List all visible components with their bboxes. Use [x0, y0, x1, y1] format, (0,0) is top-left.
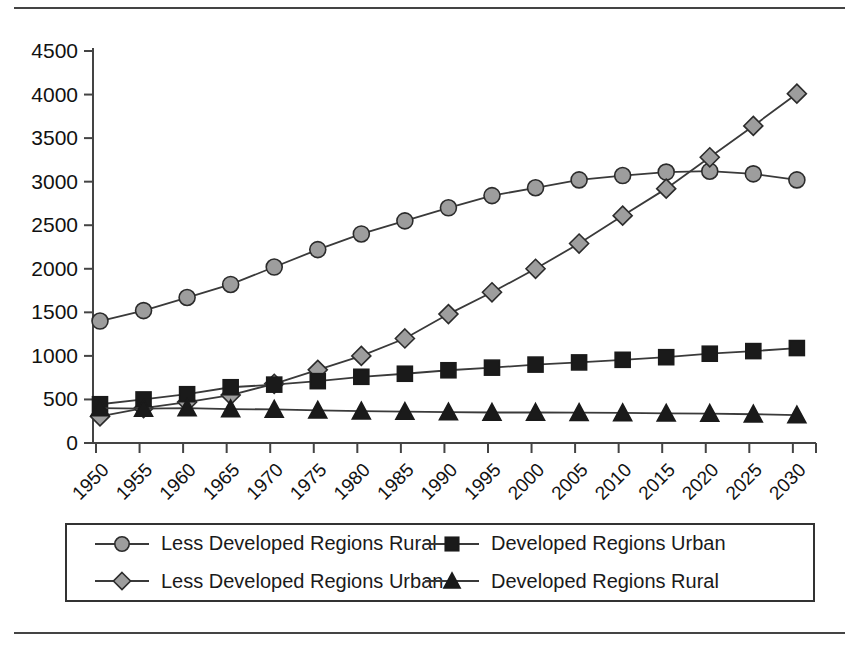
legend-item-label: Less Developed Regions Rural [161, 532, 437, 555]
data-point-marker [353, 226, 369, 242]
data-point-marker [482, 283, 501, 302]
x-axis-tick-label: 1960 [155, 459, 200, 504]
x-axis-tick-label: 1965 [199, 459, 244, 504]
data-point-marker [702, 346, 717, 361]
data-point-marker [787, 84, 806, 103]
data-point-marker [136, 303, 152, 319]
x-axis-tick-label: 1975 [286, 459, 331, 504]
data-point-marker [789, 172, 805, 188]
x-axis-tick-label: 1955 [112, 459, 157, 504]
data-point-marker [439, 305, 458, 324]
legend-item[interactable]: Developed Regions Urban [423, 532, 813, 556]
data-point-marker [310, 242, 326, 258]
data-point-marker [266, 259, 282, 275]
legend-item-label: Less Developed Regions Urban [161, 570, 443, 593]
x-axis-tick-label: 1985 [373, 459, 418, 504]
data-point-marker [223, 380, 238, 395]
data-point-marker [397, 213, 413, 229]
data-point-marker [267, 377, 282, 392]
data-point-marker [395, 329, 414, 348]
y-axis: 050010001500200025003000350040004500 [31, 39, 93, 454]
x-axis-tick-label: 2015 [634, 459, 679, 504]
x-axis-tick-label: 2030 [765, 459, 810, 504]
data-point-marker [746, 344, 761, 359]
data-point-marker [659, 350, 674, 365]
y-axis-tick-label: 2000 [31, 257, 78, 280]
data-point-marker [526, 259, 545, 278]
data-point-marker [570, 234, 589, 253]
chart-series [93, 341, 805, 412]
x-axis-tick-label: 2025 [721, 459, 766, 504]
y-axis-tick-label: 1000 [31, 344, 78, 367]
y-axis-tick-label: 3000 [31, 170, 78, 193]
y-axis-tick-label: 2500 [31, 213, 78, 236]
y-axis-tick-label: 1500 [31, 300, 78, 323]
data-point-marker [92, 313, 108, 329]
x-axis-tick-label: 1990 [417, 459, 462, 504]
y-axis-tick-label: 4500 [31, 39, 78, 62]
data-point-marker [484, 360, 499, 375]
chart-series [91, 399, 806, 423]
data-point-marker [528, 357, 543, 372]
bottom-divider-rule [14, 632, 845, 634]
data-point-marker [484, 188, 500, 204]
data-point-marker [572, 355, 587, 370]
chart-canvas: 050010001500200025003000350040004500 195… [0, 20, 859, 520]
y-axis-tick-label: 3500 [31, 126, 78, 149]
x-axis-tick-label: 1970 [242, 459, 287, 504]
x-axis-tick-label: 1995 [460, 459, 505, 504]
data-point-marker [657, 179, 676, 198]
legend-item[interactable]: Less Developed Regions Rural [93, 532, 423, 556]
x-axis-tick-label: 2020 [678, 459, 723, 504]
x-axis-tick-label: 1950 [68, 459, 113, 504]
x-axis: 1950195519601965197019751980198519901995… [68, 443, 816, 504]
data-point-marker [700, 148, 719, 167]
data-point-marker [354, 369, 369, 384]
x-axis-tick-label: 2010 [591, 459, 636, 504]
top-divider-rule [14, 7, 845, 9]
series-layer [91, 84, 807, 426]
data-point-marker [223, 276, 239, 292]
data-point-marker [658, 164, 674, 180]
x-axis-tick-label: 2005 [547, 459, 592, 504]
data-point-marker [441, 363, 456, 378]
y-axis-tick-label: 500 [43, 387, 78, 410]
data-point-marker [613, 206, 632, 225]
y-axis-tick-label: 4000 [31, 83, 78, 106]
legend-item-label: Developed Regions Urban [491, 532, 726, 555]
y-axis-tick-label: 0 [66, 431, 78, 454]
data-point-marker [744, 116, 763, 135]
data-point-marker [528, 180, 544, 196]
data-point-marker [789, 341, 804, 356]
legend-triangle-icon [423, 569, 481, 593]
data-point-marker [440, 200, 456, 216]
legend-diamond-icon [93, 569, 151, 593]
data-point-marker [615, 352, 630, 367]
line-chart: 050010001500200025003000350040004500 195… [0, 20, 859, 520]
data-point-marker [745, 166, 761, 182]
x-axis-tick-label: 1980 [329, 459, 374, 504]
data-point-marker [571, 172, 587, 188]
data-point-marker [615, 168, 631, 184]
legend-square-icon [423, 532, 481, 556]
legend-circle-icon [93, 532, 151, 556]
legend-item-label: Developed Regions Rural [491, 570, 719, 593]
legend-item[interactable]: Less Developed Regions Urban [93, 569, 423, 593]
data-point-marker [352, 346, 371, 365]
chart-legend: Less Developed Regions RuralDeveloped Re… [65, 523, 815, 602]
data-point-marker [397, 366, 412, 381]
data-point-marker [310, 374, 325, 389]
x-axis-tick-label: 2000 [504, 459, 549, 504]
legend-item[interactable]: Developed Regions Rural [423, 569, 813, 593]
data-point-marker [179, 290, 195, 306]
